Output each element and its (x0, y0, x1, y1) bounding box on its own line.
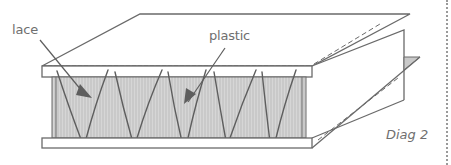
diagram-caption: Diag 2 (386, 128, 428, 141)
right-border-divider (446, 0, 448, 165)
label-plastic: plastic (209, 29, 250, 42)
bottom-board (42, 138, 312, 148)
diagram-canvas (0, 0, 451, 165)
label-lace: lace (12, 23, 38, 36)
